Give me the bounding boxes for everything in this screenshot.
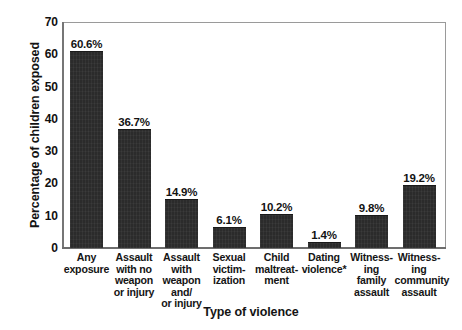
bar: [308, 242, 341, 248]
y-tick-label: 10: [30, 210, 58, 222]
bar-value-label: 9.8%: [341, 202, 402, 214]
bar-group: 36.7%: [118, 22, 151, 248]
bar: [355, 215, 388, 248]
y-axis-tick-labels: 706050403020100: [30, 0, 58, 330]
bar-group: 9.8%: [355, 22, 388, 248]
bar: [213, 227, 246, 248]
y-tick-label: 0: [30, 242, 58, 254]
y-tick-label: 20: [30, 177, 58, 189]
x-axis-category-labels: AnyexposureAssaultwith noweaponor injury…: [62, 252, 446, 312]
x-category-label-line: assault: [395, 287, 444, 299]
bar: [260, 214, 293, 248]
x-category-label-line: Any: [62, 252, 111, 264]
x-category-label-line: Assault: [157, 252, 206, 264]
bars-layer: 60.6%36.7%14.9%6.1%10.2%1.4%9.8%19.2%: [62, 22, 446, 248]
x-category-label-line: assault: [347, 287, 396, 299]
x-category-label-line: Witness-: [347, 252, 396, 264]
x-category-label-line: Witness-: [395, 252, 444, 264]
x-category-label: Assaultwith noweaponor injury: [110, 252, 159, 298]
bar-group: 10.2%: [260, 22, 293, 248]
bar: [165, 199, 198, 248]
bar-value-label: 60.6%: [56, 38, 117, 50]
y-tick-label: 50: [30, 81, 58, 93]
x-category-label-line: Sexual: [205, 252, 254, 264]
x-category-label-line: ization: [205, 275, 254, 287]
bar-chart: Percentage of children exposed 706050403…: [0, 0, 462, 330]
x-category-label: Witness-ingfamilyassault: [347, 252, 396, 298]
y-tick-label: 60: [30, 48, 58, 60]
bar-group: 19.2%: [403, 22, 436, 248]
bar-group: 14.9%: [165, 22, 198, 248]
bar-value-label: 19.2%: [389, 172, 450, 184]
x-category-label: Childmaltreat-ment: [252, 252, 301, 287]
x-category-label-line: exposure: [62, 264, 111, 276]
x-category-label: Assaultwithweaponand/or injury: [157, 252, 206, 310]
bar-group: 1.4%: [308, 22, 341, 248]
x-category-label-line: Child: [252, 252, 301, 264]
bar: [70, 51, 103, 248]
bar-value-label: 36.7%: [104, 116, 165, 128]
y-tick-label: 40: [30, 113, 58, 125]
x-axis-title: Type of violence: [0, 305, 462, 319]
y-tick-label: 30: [30, 145, 58, 157]
x-category-label-line: violence*: [300, 264, 349, 276]
bar: [118, 129, 151, 248]
x-category-label: Anyexposure: [62, 252, 111, 275]
x-category-label: Sexualvictim-ization: [205, 252, 254, 287]
bar-value-label: 14.9%: [151, 186, 212, 198]
bar-group: 60.6%: [70, 22, 103, 248]
x-category-label: Datingviolence*: [300, 252, 349, 275]
x-category-label-line: Dating: [300, 252, 349, 264]
x-category-label-line: ment: [252, 275, 301, 287]
x-category-label-line: or injury: [110, 287, 159, 299]
bar-group: 6.1%: [213, 22, 246, 248]
bar: [403, 185, 436, 248]
x-category-label-line: Assault: [110, 252, 159, 264]
y-tick-label: 70: [30, 16, 58, 28]
bar-value-label: 6.1%: [199, 214, 260, 226]
bar-value-label: 10.2%: [246, 201, 307, 213]
x-category-label: Witness-ingcommunityassault: [395, 252, 444, 298]
bar-value-label: 1.4%: [294, 229, 355, 241]
